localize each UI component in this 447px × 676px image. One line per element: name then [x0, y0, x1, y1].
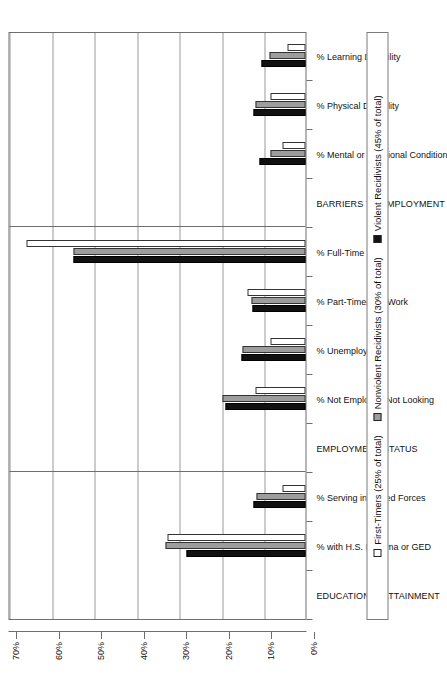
value-axis-tick	[271, 632, 272, 639]
value-axis-label: 50%	[97, 642, 106, 660]
legend-item: Violent Recidivists (45% of total)	[372, 95, 382, 243]
category-axis-tick	[306, 325, 312, 326]
bar-group	[9, 276, 305, 325]
bar-nonviolent	[256, 493, 305, 500]
bar-first	[282, 142, 305, 149]
bar-first	[26, 240, 305, 247]
category-axis-tick	[306, 521, 312, 522]
category-axis: EDUCATIONAL ATTAINMENT% with H.S. Diplom…	[306, 32, 405, 620]
bar-group	[9, 129, 305, 178]
section-divider	[9, 471, 305, 472]
bar-group	[9, 374, 305, 423]
bar-violent	[253, 109, 305, 116]
bar-first	[270, 93, 305, 100]
value-axis-label: 20%	[224, 642, 233, 660]
legend-item-label: First-Timers (25% of total)	[372, 435, 382, 544]
category-axis-tick	[306, 227, 312, 228]
chart-legend: First-Timers (25% of total)Nonviolent Re…	[366, 32, 388, 620]
gray-square-swatch	[373, 413, 381, 421]
bar-first	[255, 387, 305, 394]
bar-group	[9, 31, 305, 80]
value-axis-label: 30%	[182, 642, 191, 660]
bar-nonviolent	[255, 101, 305, 108]
value-axis-label: 40%	[139, 642, 148, 660]
bar-nonviolent	[222, 395, 305, 402]
value-axis-tick	[143, 632, 144, 639]
plot-area	[8, 32, 306, 620]
value-axis-label: 60%	[54, 642, 63, 660]
category-axis-tick	[306, 276, 312, 277]
bar-nonviolent	[242, 346, 305, 353]
bar-first	[287, 44, 305, 51]
value-axis-label: 70%	[12, 642, 21, 660]
legend-item-label: Nonviolent Recidivists (30% of total)	[372, 257, 382, 409]
category-axis-tick	[306, 570, 312, 571]
category-axis-tick	[306, 178, 312, 179]
bar-first	[247, 289, 305, 296]
value-axis-tick	[228, 632, 229, 639]
bar-nonviolent	[73, 248, 305, 255]
bar-nonviolent	[165, 542, 305, 549]
bar-first	[270, 338, 305, 345]
category-axis-tick	[306, 129, 312, 130]
value-axis-label: 10%	[267, 642, 276, 660]
black-square-swatch	[373, 235, 381, 243]
value-axis-label: 0%	[310, 642, 319, 655]
bar-violent	[253, 501, 305, 508]
bar-nonviolent	[270, 150, 305, 157]
bar-violent	[259, 158, 305, 165]
legend-item: First-Timers (25% of total)	[372, 435, 382, 556]
section-divider	[9, 226, 305, 227]
bar-first	[167, 534, 305, 541]
bar-group	[9, 80, 305, 129]
category-axis-tick	[306, 619, 312, 620]
bar-group	[9, 325, 305, 374]
value-axis-tick	[101, 632, 102, 639]
value-axis-tick	[186, 632, 187, 639]
bar-nonviolent	[251, 297, 305, 304]
legend-item-label: Violent Recidivists (45% of total)	[372, 95, 382, 231]
bar-violent	[252, 305, 305, 312]
bar-group	[9, 227, 305, 276]
bar-violent	[186, 550, 305, 557]
bar-group	[9, 472, 305, 521]
value-axis-tick	[314, 632, 315, 639]
category-axis-tick	[306, 423, 312, 424]
category-label: % Part-Time/Occ Work	[316, 298, 408, 308]
category-axis-tick	[306, 472, 312, 473]
category-axis-tick	[306, 80, 312, 81]
bar-first	[282, 485, 305, 492]
bar-violent	[225, 403, 305, 410]
legend-item: Nonviolent Recidivists (30% of total)	[372, 257, 382, 421]
bar-violent	[73, 256, 305, 263]
bar-violent	[241, 354, 305, 361]
bar-nonviolent	[269, 52, 305, 59]
bar-violent	[261, 60, 305, 67]
bar-group	[9, 521, 305, 570]
value-axis: 0%10%20%30%40%50%60%70%	[8, 620, 306, 676]
value-axis-tick	[16, 632, 17, 639]
value-axis-line	[8, 631, 306, 632]
value-axis-tick	[58, 632, 59, 639]
white-square-swatch	[373, 549, 381, 557]
category-axis-tick	[306, 374, 312, 375]
